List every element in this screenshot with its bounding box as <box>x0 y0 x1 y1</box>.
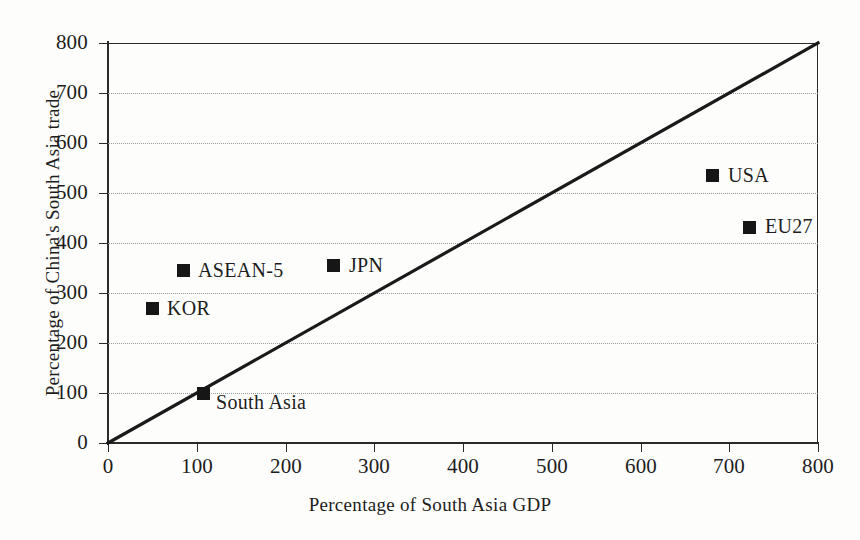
y-tick-label-800: 800 <box>26 32 88 53</box>
y-tick-200 <box>99 343 108 344</box>
y-tick-400 <box>99 243 108 244</box>
y-tick-label-0: 0 <box>26 432 88 453</box>
y-tick-600 <box>99 143 108 144</box>
gridline-200 <box>108 343 818 344</box>
x-tick-label-700: 700 <box>694 455 764 477</box>
y-tick-800 <box>99 43 108 44</box>
data-label-eu27: EU27 <box>765 216 813 236</box>
scatter-chart: 800 700 600 500 400 300 200 100 0 0 100 … <box>0 0 860 540</box>
y-tick-0 <box>99 443 108 444</box>
x-tick-300 <box>374 443 375 452</box>
x-tick-label-0: 0 <box>73 455 143 477</box>
data-point-kor[interactable] <box>146 302 159 315</box>
x-tick-label-500: 500 <box>517 455 587 477</box>
data-label-jpn: JPN <box>349 255 383 275</box>
data-label-asean5: ASEAN-5 <box>198 260 283 280</box>
data-point-eu27[interactable] <box>743 221 756 234</box>
x-tick-label-800: 800 <box>783 455 853 477</box>
y-tick-700 <box>99 93 108 94</box>
x-tick-200 <box>286 443 287 452</box>
x-tick-600 <box>641 443 642 452</box>
x-tick-0 <box>108 443 109 452</box>
gridline-400 <box>108 243 818 244</box>
gridline-300 <box>108 293 818 294</box>
x-tick-100 <box>197 443 198 452</box>
y-axis-title: Percentage of China's South Asia trade <box>42 78 64 408</box>
data-point-south-asia[interactable] <box>197 387 210 400</box>
x-tick-500 <box>552 443 553 452</box>
data-point-jpn[interactable] <box>327 259 340 272</box>
data-label-south-asia: South Asia <box>216 392 306 412</box>
gridline-700 <box>108 93 818 94</box>
x-tick-800 <box>818 443 819 452</box>
data-point-usa[interactable] <box>706 169 719 182</box>
x-tick-label-400: 400 <box>428 455 498 477</box>
x-tick-label-300: 300 <box>339 455 409 477</box>
gridline-500 <box>108 193 818 194</box>
x-tick-label-200: 200 <box>251 455 321 477</box>
data-point-asean5[interactable] <box>177 264 190 277</box>
y-tick-500 <box>99 193 108 194</box>
x-tick-label-100: 100 <box>162 455 232 477</box>
x-tick-label-600: 600 <box>606 455 676 477</box>
x-axis-title: Percentage of South Asia GDP <box>0 494 860 516</box>
data-label-kor: KOR <box>167 298 210 318</box>
x-tick-700 <box>729 443 730 452</box>
data-label-usa: USA <box>728 165 769 185</box>
y-tick-100 <box>99 393 108 394</box>
y-tick-300 <box>99 293 108 294</box>
x-tick-400 <box>463 443 464 452</box>
gridline-100 <box>108 393 818 394</box>
gridline-600 <box>108 143 818 144</box>
